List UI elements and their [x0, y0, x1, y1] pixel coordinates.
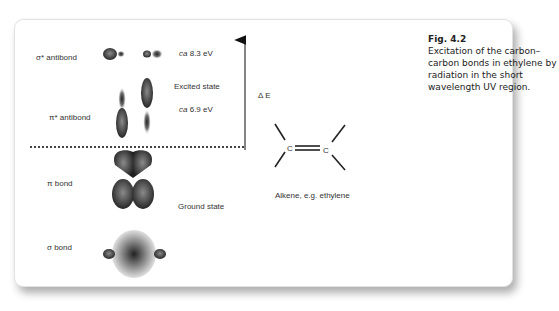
carbon-atom-1: C: [287, 144, 293, 153]
carbon-atom-2: C: [323, 146, 329, 155]
figure-caption: Fig. 4.2 Excitation of the carbon–carbon…: [428, 33, 558, 93]
sigma-bond-orbital: [103, 230, 166, 278]
sigma-bond-label: σ bond: [47, 243, 72, 252]
figure-caption-text: Excitation of the carbon–carbon bonds in…: [428, 46, 556, 92]
delta-e-label: Δ E: [258, 91, 270, 100]
figure-number: Fig. 4.2: [428, 33, 558, 45]
molecule-caption: Alkene, e.g. ethylene: [275, 191, 350, 200]
sigma-antibond-energy: ca 8.3 eV: [179, 49, 213, 58]
pi-antibond-orbital: [116, 78, 153, 138]
excited-state-label: Excited state: [174, 82, 220, 91]
sigma-antibond-label: σ* antibond: [36, 53, 77, 62]
pi-bond-orbital: [112, 150, 154, 209]
ground-state-label: Ground state: [178, 202, 224, 211]
pi-antibond-label: π* antibond: [49, 113, 91, 122]
ground-excited-divider: [30, 146, 244, 148]
sigma-antibond-orbital: [103, 48, 163, 60]
ethylene-structure: [275, 124, 345, 170]
pi-bond-label: π bond: [47, 179, 73, 188]
pi-antibond-energy: ca 6.9 eV: [179, 105, 213, 114]
